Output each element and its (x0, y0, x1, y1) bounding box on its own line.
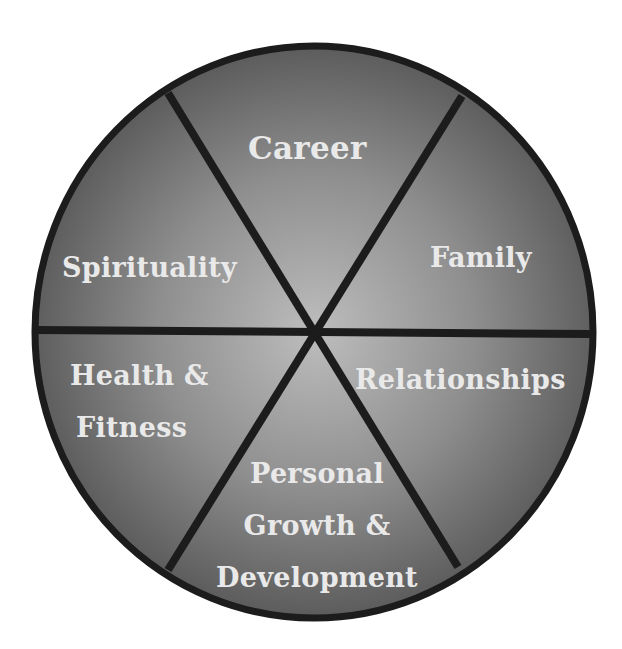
health-line-2: Fitness (70, 402, 209, 454)
personal-growth-line-1: Personal (214, 448, 420, 500)
personal-growth-line-3: Development (214, 552, 420, 604)
segment-label-family: Family (430, 232, 532, 284)
segment-label-health: Health & Fitness (70, 350, 209, 454)
segment-label-personal-growth: Personal Growth & Development (214, 448, 420, 604)
personal-growth-line-2: Growth & (214, 500, 420, 552)
health-line-1: Health & (70, 350, 209, 402)
segment-label-career: Career (248, 122, 367, 174)
segment-label-spirituality: Spirituality (62, 242, 237, 294)
segment-label-relationships: Relationships (355, 354, 566, 406)
